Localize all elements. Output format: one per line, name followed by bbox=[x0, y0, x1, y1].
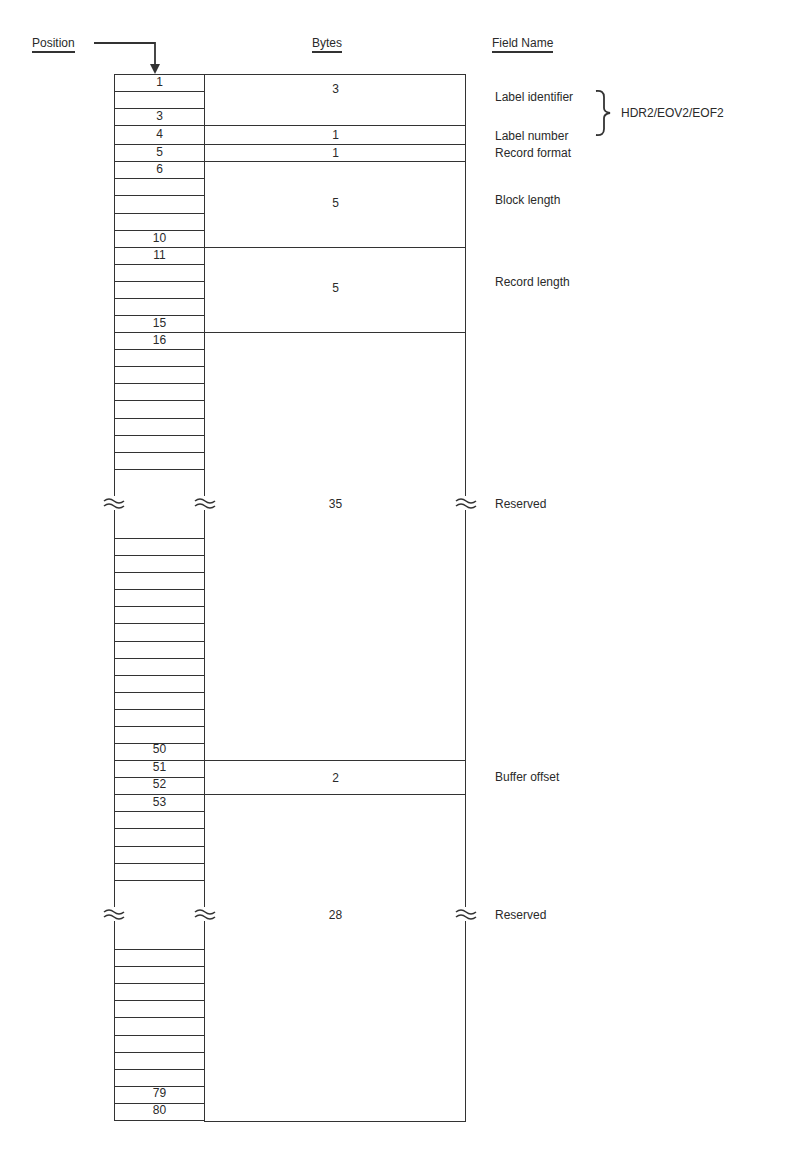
field-record-format: Record format bbox=[495, 146, 571, 160]
group-brace-icon bbox=[594, 88, 616, 138]
field-label-number: Label number bbox=[495, 129, 568, 143]
position-label: 51 bbox=[114, 761, 205, 774]
position-gap bbox=[114, 897, 205, 934]
position-cell bbox=[114, 281, 205, 300]
position-cell bbox=[114, 555, 205, 574]
bytes-label-number: 1 bbox=[205, 128, 466, 142]
position-cell bbox=[114, 418, 205, 437]
position-cell bbox=[114, 641, 205, 660]
position-label: 3 bbox=[114, 110, 205, 123]
position-label: 52 bbox=[114, 778, 205, 791]
position-cell bbox=[114, 91, 205, 110]
position-cell bbox=[114, 932, 205, 951]
break-symbol-icon bbox=[454, 496, 478, 510]
break-symbol-icon bbox=[102, 907, 126, 921]
position-cell bbox=[114, 966, 205, 985]
position-label: 6 bbox=[114, 163, 205, 176]
break-symbol-icon bbox=[193, 907, 217, 921]
position-header: Position bbox=[32, 36, 75, 53]
position-cell bbox=[114, 195, 205, 214]
position-cell bbox=[114, 949, 205, 968]
position-cell bbox=[114, 658, 205, 677]
bytes-block-length: 5 bbox=[205, 196, 466, 210]
position-cell bbox=[114, 178, 205, 197]
position-label: 80 bbox=[114, 1104, 205, 1117]
position-cell bbox=[114, 538, 205, 557]
bytes-record-format: 1 bbox=[205, 146, 466, 160]
field-buffer-offset: Buffer offset bbox=[495, 770, 559, 784]
break-symbol-icon bbox=[102, 496, 126, 510]
position-cell bbox=[114, 589, 205, 608]
bytes-buffer-offset: 2 bbox=[205, 771, 466, 785]
position-label: 15 bbox=[114, 317, 205, 330]
position-label: 16 bbox=[114, 334, 205, 347]
field-reserved-1: Reserved bbox=[495, 497, 546, 511]
position-cell bbox=[114, 1069, 205, 1088]
label-format-diagram: Position Bytes Field Name 13456101115165… bbox=[0, 0, 803, 1152]
position-label: 1 bbox=[114, 76, 205, 89]
field-reserved-2: Reserved bbox=[495, 908, 546, 922]
position-label: 53 bbox=[114, 796, 205, 809]
position-cell bbox=[114, 828, 205, 847]
position-cell bbox=[114, 213, 205, 232]
bytes-reserved-2: 28 bbox=[205, 908, 466, 922]
position-cell bbox=[114, 863, 205, 882]
position-cell bbox=[114, 1000, 205, 1019]
position-cell bbox=[114, 846, 205, 865]
break-symbol-icon bbox=[454, 907, 478, 921]
position-label: 50 bbox=[114, 743, 205, 756]
position-arrow-icon bbox=[92, 38, 162, 78]
position-label: 5 bbox=[114, 146, 205, 159]
position-cell bbox=[114, 1052, 205, 1071]
position-cell bbox=[114, 1017, 205, 1036]
position-cell bbox=[114, 675, 205, 694]
bytes-block bbox=[204, 794, 467, 1122]
position-cell bbox=[114, 298, 205, 317]
position-label: 10 bbox=[114, 232, 205, 245]
bytes-label-identifier: 3 bbox=[205, 82, 466, 96]
position-cell bbox=[114, 435, 205, 454]
position-cell bbox=[114, 366, 205, 385]
position-cell bbox=[114, 400, 205, 419]
position-label: 79 bbox=[114, 1087, 205, 1100]
position-cell bbox=[114, 811, 205, 830]
position-cell bbox=[114, 606, 205, 625]
position-label: 11 bbox=[114, 249, 205, 262]
position-cell bbox=[114, 383, 205, 402]
position-cell bbox=[114, 709, 205, 728]
bytes-reserved-1: 35 bbox=[205, 497, 466, 511]
position-cell bbox=[114, 469, 205, 488]
bytes-record-length: 5 bbox=[205, 281, 466, 295]
group-label: HDR2/EOV2/EOF2 bbox=[621, 106, 724, 120]
position-cell bbox=[114, 623, 205, 642]
field-record-length: Record length bbox=[495, 275, 570, 289]
position-cell bbox=[114, 521, 205, 540]
field-label-identifier: Label identifier bbox=[495, 90, 573, 104]
position-cell bbox=[114, 264, 205, 283]
break-symbol-icon bbox=[193, 496, 217, 510]
position-cell bbox=[114, 452, 205, 471]
position-cell bbox=[114, 880, 205, 899]
position-cell bbox=[114, 1035, 205, 1054]
bytes-block bbox=[204, 332, 467, 762]
position-cell bbox=[114, 572, 205, 591]
field-name-header: Field Name bbox=[492, 36, 553, 53]
position-cell bbox=[114, 983, 205, 1002]
position-gap bbox=[114, 486, 205, 523]
bytes-header: Bytes bbox=[312, 36, 342, 53]
position-cell bbox=[114, 349, 205, 368]
position-cell bbox=[114, 692, 205, 711]
position-label: 4 bbox=[114, 128, 205, 141]
field-block-length: Block length bbox=[495, 193, 560, 207]
